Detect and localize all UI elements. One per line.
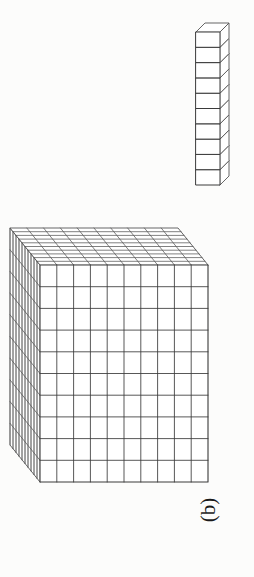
panel-label-b: (b) (186, 488, 230, 532)
thousand-cube (10, 228, 208, 482)
figure-page: (b) (0, 0, 254, 577)
unit-rod (196, 23, 229, 185)
